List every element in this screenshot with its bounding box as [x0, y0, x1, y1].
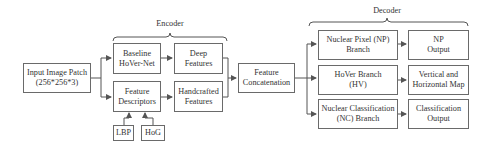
decoder-label: Decoder — [367, 6, 407, 15]
node-label: HoVer Branch (HV) — [334, 70, 381, 90]
encoder-label: Encoder — [150, 19, 190, 28]
np-output-node: NP Output — [408, 30, 469, 60]
node-label: Classification Output — [416, 104, 461, 124]
node-label: Vertical and Horizontal Map — [412, 70, 464, 90]
node-label: Feature Descriptors — [118, 87, 156, 107]
node-label: Nuclear Classification (NC) Branch — [322, 104, 395, 124]
nc-output-node: Classification Output — [408, 99, 469, 129]
feature-descriptors-node: Feature Descriptors — [113, 81, 161, 112]
node-label: Input Image Patch (256*256*3) — [27, 68, 87, 88]
lbp-node: LBP — [113, 125, 134, 141]
node-label: NP Output — [427, 35, 450, 55]
input-image-patch-node: Input Image Patch (256*256*3) — [23, 63, 91, 93]
node-label: LBP — [116, 128, 131, 138]
baseline-hovernet-node: Baseline HoVer-Net — [113, 43, 161, 74]
hv-branch-node: HoVer Branch (HV) — [318, 65, 398, 95]
nc-branch-node: Nuclear Classification (NC) Branch — [318, 99, 398, 129]
node-label: Baseline HoVer-Net — [119, 49, 155, 69]
node-label: Deep Features — [185, 49, 213, 69]
deep-features-node: Deep Features — [174, 43, 223, 74]
handcrafted-features-node: Handcrafted Features — [174, 81, 223, 112]
hog-node: HoG — [141, 125, 165, 141]
node-label: Handcrafted Features — [178, 87, 218, 107]
node-label: Feature Concatenation — [243, 68, 290, 88]
np-branch-node: Nuclear Pixel (NP) Branch — [318, 30, 398, 60]
feature-concatenation-node: Feature Concatenation — [238, 63, 295, 93]
hv-output-node: Vertical and Horizontal Map — [408, 65, 469, 95]
node-label: Nuclear Pixel (NP) Branch — [327, 35, 390, 55]
node-label: HoG — [145, 128, 161, 138]
